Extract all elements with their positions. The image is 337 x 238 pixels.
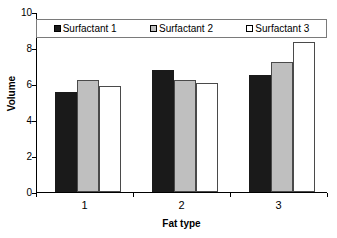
y-tick-mark: [32, 49, 36, 50]
y-tick-label: 4: [10, 116, 32, 126]
bars-layer: [37, 13, 327, 192]
y-tick-mark: [32, 157, 36, 158]
bar-3-series-3: [293, 42, 315, 192]
y-tick-mark: [32, 85, 36, 86]
bar-1-series-1: [55, 92, 77, 192]
legend-label: Surfactant 1: [63, 23, 117, 34]
x-tick-mark: [327, 193, 328, 197]
y-tick-label: 6: [10, 80, 32, 90]
legend-label: Surfactant 3: [255, 23, 309, 34]
y-tick-mark: [32, 121, 36, 122]
y-axis-ticks: 0246810: [8, 0, 32, 238]
legend-entry-2: Surfactant 2: [133, 23, 229, 34]
y-tick-mark: [32, 13, 36, 14]
legend-entry-1: Surfactant 1: [37, 23, 133, 34]
x-tick-mark: [133, 193, 134, 197]
x-tick-mark: [36, 193, 37, 197]
x-axis-title: Fat type: [36, 218, 327, 229]
y-tick-label: 2: [10, 152, 32, 162]
bar-chart: Volume 0246810 Surfactant 1Surfactant 2S…: [0, 0, 337, 238]
legend-swatch-icon: [246, 25, 253, 32]
x-tick-label: 2: [162, 199, 202, 211]
y-tick-label: 10: [10, 8, 32, 18]
x-tick-label: 1: [65, 199, 105, 211]
legend-label: Surfactant 2: [159, 23, 213, 34]
x-tick-label: 3: [259, 199, 299, 211]
bar-2-series-1: [152, 70, 174, 192]
bar-2-series-3: [196, 83, 218, 192]
y-tick-mark: [32, 193, 36, 194]
y-tick-label: 8: [10, 44, 32, 54]
y-tick-label: 0: [10, 188, 32, 198]
bar-3-series-1: [249, 75, 271, 192]
legend-swatch-icon: [54, 25, 61, 32]
legend-entry-3: Surfactant 3: [230, 23, 326, 34]
bar-1-series-3: [99, 86, 121, 192]
chart-legend: Surfactant 1Surfactant 2Surfactant 3: [36, 19, 327, 38]
bar-1-series-2: [77, 80, 99, 192]
bar-2-series-2: [174, 80, 196, 192]
bar-3-series-2: [271, 62, 293, 192]
legend-swatch-icon: [150, 25, 157, 32]
plot-area: [36, 13, 327, 193]
x-tick-mark: [230, 193, 231, 197]
